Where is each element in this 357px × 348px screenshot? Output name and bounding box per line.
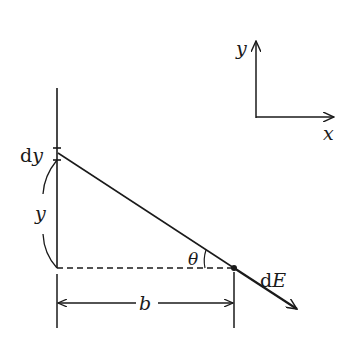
- dE-label: dE: [260, 269, 286, 291]
- coordinate-axes: [256, 41, 334, 118]
- dy-label: dy: [20, 144, 43, 166]
- axis-y-label: y: [235, 37, 247, 59]
- theta-label: θ: [188, 249, 198, 269]
- axis-x-label: x: [323, 122, 334, 144]
- b-label: b: [139, 292, 151, 314]
- y-label: y: [34, 202, 46, 224]
- diagram-canvas: dy y b θ dE y x: [0, 0, 357, 348]
- distance-line: [58, 153, 234, 268]
- theta-arc: [204, 250, 206, 268]
